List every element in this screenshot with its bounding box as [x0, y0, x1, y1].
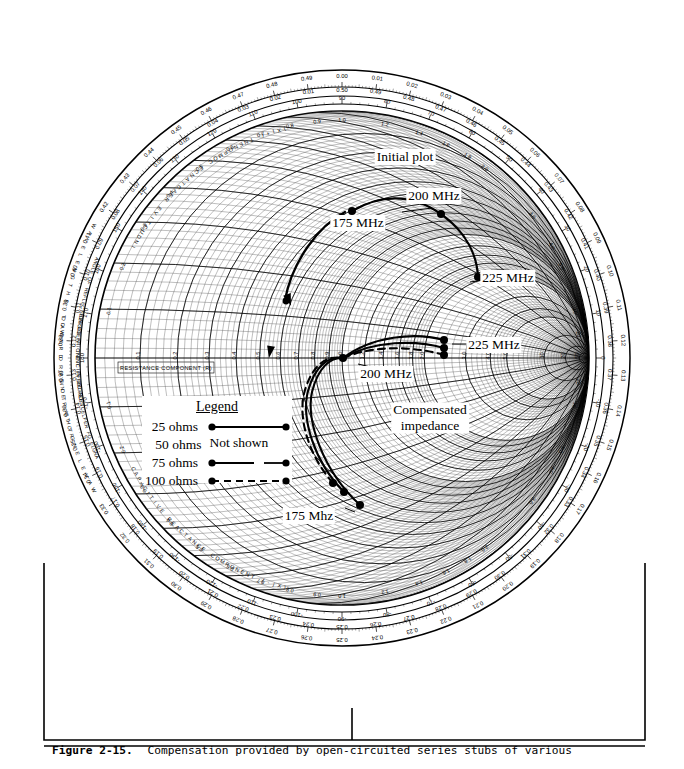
- svg-text:-30: -30: [563, 483, 573, 494]
- svg-text:70: 70: [427, 109, 436, 117]
- svg-text:1.4: 1.4: [415, 129, 424, 137]
- svg-text:0.40: 0.40: [593, 269, 602, 282]
- svg-text:10: 10: [572, 402, 579, 409]
- svg-text:I: I: [75, 343, 81, 345]
- svg-text:-10: -10: [595, 399, 603, 409]
- legend-rows: 25 ohms50 ohmsNot shown75 ohms100 ohms: [142, 418, 292, 490]
- smith-chart-figure: 0.000.010.020.030.040.050.060.070.080.09…: [0, 0, 684, 769]
- svg-text:I: I: [149, 215, 155, 220]
- annotation-initial-200: 200 MHz: [406, 188, 461, 204]
- legend-row-label: 75 ohms: [142, 455, 206, 471]
- svg-text:0.39: 0.39: [602, 302, 610, 314]
- svg-text:N: N: [133, 239, 140, 245]
- svg-text:E: E: [74, 260, 81, 266]
- svg-text:0.34: 0.34: [579, 466, 590, 480]
- svg-text:0.16: 0.16: [94, 465, 105, 479]
- legend-title: Legend: [142, 399, 292, 415]
- svg-text:O: O: [60, 389, 66, 394]
- svg-text:C: C: [75, 364, 81, 368]
- annotation-initial-175: 175 MHz: [330, 215, 385, 231]
- svg-text:E: E: [75, 357, 81, 361]
- svg-text:0.22: 0.22: [439, 615, 452, 625]
- svg-text:0.9: 0.9: [324, 352, 330, 360]
- legend-line-art: [206, 418, 292, 436]
- svg-text:40: 40: [537, 186, 546, 195]
- svg-text:0.38: 0.38: [607, 335, 614, 348]
- legend-row: 100 ohms: [142, 472, 292, 490]
- svg-text:R: R: [58, 347, 64, 351]
- svg-text:0.15: 0.15: [605, 439, 614, 452]
- legend-line-art: [206, 454, 292, 472]
- svg-text:150: 150: [111, 221, 121, 233]
- svg-text:-110: -110: [246, 598, 259, 608]
- svg-text:-90: -90: [337, 616, 346, 622]
- svg-text:1.8: 1.8: [408, 352, 414, 360]
- svg-text:I: I: [75, 369, 81, 371]
- svg-text:0.47: 0.47: [232, 91, 245, 101]
- svg-text:I: I: [75, 362, 81, 364]
- svg-text:20: 20: [560, 352, 566, 358]
- figure-frame: [44, 563, 645, 746]
- legend-row-note: Not shown: [209, 435, 268, 451]
- svg-text:A: A: [59, 325, 65, 330]
- svg-text:0.1: 0.1: [105, 307, 112, 316]
- svg-text:90: 90: [339, 95, 346, 101]
- svg-text:-50: -50: [504, 552, 515, 563]
- svg-text:20: 20: [575, 378, 582, 385]
- svg-text:L: L: [77, 458, 84, 463]
- svg-text:1.4: 1.4: [415, 579, 424, 587]
- svg-text:0.5: 0.5: [255, 352, 261, 360]
- svg-text:0.48: 0.48: [266, 80, 279, 89]
- svg-text:0.25: 0.25: [336, 624, 348, 630]
- svg-text:D: D: [58, 357, 64, 361]
- svg-text:0.8: 0.8: [285, 586, 294, 594]
- svg-text:0.35: 0.35: [593, 435, 602, 448]
- svg-text:N: N: [75, 339, 81, 343]
- svg-text:0.46: 0.46: [465, 117, 479, 128]
- svg-text:T: T: [61, 397, 68, 402]
- svg-text:1.0: 1.0: [338, 117, 346, 123]
- svg-text:0.25: 0.25: [336, 637, 348, 643]
- annotation-comp-175: 175 Mhz: [283, 508, 335, 524]
- svg-text:0.10: 0.10: [606, 264, 615, 277]
- svg-text:0.00: 0.00: [336, 73, 348, 79]
- svg-text:R: R: [58, 365, 64, 369]
- annotation-initial-plot: Initial plot: [375, 149, 436, 165]
- svg-text:W: W: [90, 486, 98, 493]
- svg-text:0.13: 0.13: [620, 370, 627, 383]
- svg-text:0.21: 0.21: [206, 588, 219, 599]
- legend-row-sample: [206, 472, 292, 490]
- svg-text:0.49: 0.49: [370, 88, 382, 95]
- svg-text:L: L: [58, 341, 64, 344]
- svg-text:0.9: 0.9: [313, 591, 321, 598]
- svg-text:E: E: [74, 451, 81, 457]
- svg-text:O: O: [59, 333, 65, 338]
- svg-text:1.0: 1.0: [338, 593, 346, 599]
- annotation-comp-200: 200 MHz: [358, 366, 413, 382]
- figure-caption: Figure 2-15. Compensation provided by op…: [52, 744, 672, 757]
- legend-row-sample: [206, 418, 292, 436]
- svg-text:F: F: [75, 371, 81, 375]
- svg-text:V: V: [152, 210, 159, 217]
- svg-text:0.28: 0.28: [231, 615, 245, 625]
- svg-text:1.4: 1.4: [378, 352, 384, 360]
- legend-line-art: [206, 472, 292, 490]
- svg-text:100: 100: [291, 98, 302, 106]
- svg-text:E: E: [80, 465, 87, 471]
- svg-text:130: 130: [169, 153, 181, 164]
- svg-text:0.26: 0.26: [300, 634, 313, 641]
- svg-text:0.36: 0.36: [602, 402, 610, 415]
- svg-text:0.42: 0.42: [563, 208, 574, 221]
- svg-text:0.8: 0.8: [310, 352, 316, 360]
- svg-text:-120: -120: [205, 578, 219, 589]
- svg-text:0.1: 0.1: [135, 352, 141, 360]
- svg-text:I: I: [152, 500, 158, 505]
- legend: Legend 25 ohms50 ohmsNot shown75 ohms100…: [142, 396, 292, 483]
- svg-text:0.01: 0.01: [302, 88, 314, 95]
- svg-text:0.03: 0.03: [439, 91, 453, 101]
- svg-text:0.2: 0.2: [118, 445, 126, 454]
- svg-text:0.02: 0.02: [406, 81, 419, 90]
- svg-text:R: R: [62, 402, 69, 407]
- svg-text:2.0: 2.0: [419, 352, 425, 360]
- svg-text:-100: -100: [290, 610, 303, 618]
